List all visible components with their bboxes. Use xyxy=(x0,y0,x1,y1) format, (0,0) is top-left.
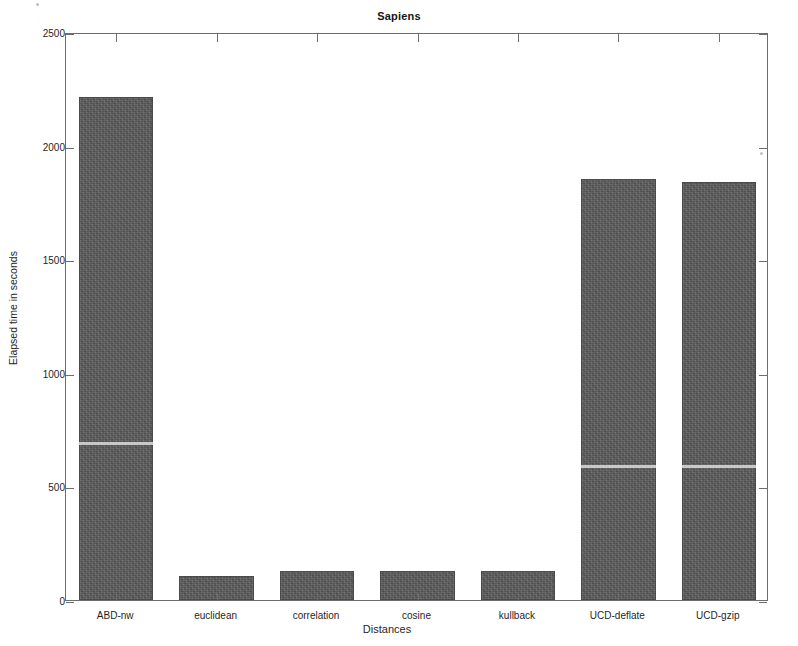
plot-area: 05001000150020002500 xyxy=(65,33,768,601)
bar xyxy=(682,182,756,600)
x-axis-category-label: euclidean xyxy=(194,610,237,621)
x-axis-category-label: correlation xyxy=(293,610,340,621)
x-axis-tick-top xyxy=(418,34,419,42)
chart-title: Sapiens xyxy=(0,10,798,22)
x-axis-category-label: cosine xyxy=(402,610,431,621)
bar xyxy=(581,179,655,600)
x-axis-tick-bottom xyxy=(418,593,419,600)
x-axis-tick-bottom xyxy=(719,593,720,600)
scan-speck-topleft xyxy=(36,3,39,6)
chart-figure: Sapiens 05001000150020002500 Distances E… xyxy=(0,0,798,646)
y-axis-tick-label: 2500 xyxy=(5,28,65,39)
y-axis-tick-right xyxy=(759,375,767,376)
y-axis-tick-right xyxy=(759,34,767,35)
x-axis-tick-bottom xyxy=(116,593,117,600)
x-axis-category-label: UCD-gzip xyxy=(696,610,739,621)
y-axis-tick-right xyxy=(759,488,767,489)
y-axis-tick xyxy=(66,261,74,262)
y-axis-tick xyxy=(66,148,74,149)
y-axis-title: Elapsed time in seconds xyxy=(7,223,19,393)
bar xyxy=(79,97,153,600)
x-axis-tick-top xyxy=(518,34,519,42)
x-axis-tick-top xyxy=(116,34,117,42)
y-axis-tick xyxy=(66,34,74,35)
y-axis-tick xyxy=(66,375,74,376)
y-axis-tick-label: 0 xyxy=(5,596,65,607)
x-axis-tick-bottom xyxy=(317,593,318,600)
y-axis-tick xyxy=(66,488,74,489)
x-axis-tick-bottom xyxy=(518,593,519,600)
y-axis-tick-right xyxy=(759,261,767,262)
x-axis-title: Distances xyxy=(0,623,786,635)
x-axis-category-label: ABD-nw xyxy=(97,610,134,621)
y-axis-tick-label: 2000 xyxy=(5,142,65,153)
x-axis-tick-top xyxy=(618,34,619,42)
x-axis-tick-bottom xyxy=(217,593,218,600)
x-axis-tick-top xyxy=(217,34,218,42)
x-axis-tick-top xyxy=(719,34,720,42)
x-axis-tick-bottom xyxy=(618,593,619,600)
x-axis-category-label: UCD-deflate xyxy=(590,610,645,621)
y-axis-tick-right xyxy=(759,602,767,603)
x-axis-category-label: kullback xyxy=(499,610,535,621)
y-axis-tick-label: 500 xyxy=(5,482,65,493)
y-axis-tick-right xyxy=(759,148,767,149)
x-axis-tick-top xyxy=(317,34,318,42)
y-axis-tick xyxy=(66,602,74,603)
